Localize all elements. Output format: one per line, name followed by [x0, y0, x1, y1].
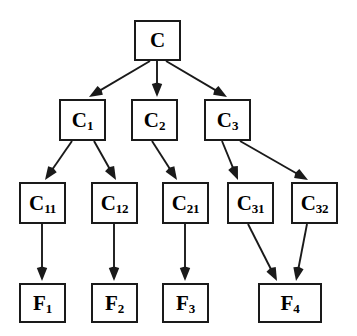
node-label-f3: F3: [176, 293, 195, 314]
node-c21[interactable]: C21: [162, 182, 209, 224]
node-f1[interactable]: F1: [19, 283, 66, 323]
edge-c1-to-c11: [45, 141, 72, 180]
edge-c3-to-c32: [240, 141, 308, 180]
arrowhead-icon: [228, 166, 238, 180]
node-c[interactable]: C: [134, 20, 181, 61]
node-label-c1: C1: [72, 110, 93, 131]
node-label-f4: F4: [280, 293, 299, 314]
node-c31[interactable]: C31: [227, 182, 274, 224]
edge-c12-to-f2: [109, 224, 119, 281]
node-label-f1: F1: [33, 293, 52, 314]
arrowhead-icon: [166, 166, 177, 180]
arrowhead-icon: [37, 267, 47, 282]
node-label-c21: C21: [172, 193, 200, 214]
node-label-c12: C12: [101, 193, 129, 214]
arrowhead-icon: [45, 166, 57, 180]
node-c1[interactable]: C1: [59, 99, 106, 141]
node-f4[interactable]: F4: [258, 283, 322, 323]
edge-c11-to-f1: [37, 224, 47, 281]
arrowhead-icon: [266, 267, 277, 281]
edge-c-to-c1: [89, 61, 150, 97]
edge-c-to-c2: [152, 61, 162, 97]
arrowhead-icon: [152, 83, 162, 98]
arrowhead-icon: [293, 267, 303, 281]
node-label-c3: C3: [217, 110, 238, 131]
edge-c2-to-c21: [152, 141, 177, 180]
node-c12[interactable]: C12: [91, 182, 138, 224]
node-f3[interactable]: F3: [162, 283, 209, 323]
node-label-c11: C11: [29, 193, 56, 214]
edge-c1-to-c12: [94, 141, 116, 180]
node-c3[interactable]: C3: [204, 99, 251, 141]
arrowhead-icon: [109, 267, 119, 282]
arrowhead-icon: [294, 169, 308, 180]
node-label-c2: C2: [144, 110, 165, 131]
node-label-c32: C32: [301, 193, 329, 214]
arrowhead-icon: [213, 86, 227, 97]
arrowhead-icon: [89, 86, 103, 97]
node-label-c: C: [150, 30, 165, 51]
edge-c32-to-f4: [293, 224, 307, 281]
arrowhead-icon: [180, 267, 190, 282]
edge-c3-to-c31: [222, 141, 238, 180]
node-label-c31: C31: [237, 193, 265, 214]
arrowhead-icon: [105, 166, 116, 180]
edge-c31-to-f4: [248, 224, 277, 281]
node-f2[interactable]: F2: [91, 283, 138, 323]
tree-diagram: C C1 C2 C3 C11 C12 C21 C31: [0, 0, 357, 336]
node-c2[interactable]: C2: [131, 99, 178, 141]
node-c11[interactable]: C11: [19, 182, 66, 224]
edge-c-to-c3: [166, 61, 227, 97]
edge-c21-to-f3: [180, 224, 190, 281]
node-label-f2: F2: [105, 293, 124, 314]
node-c32[interactable]: C32: [291, 182, 338, 224]
